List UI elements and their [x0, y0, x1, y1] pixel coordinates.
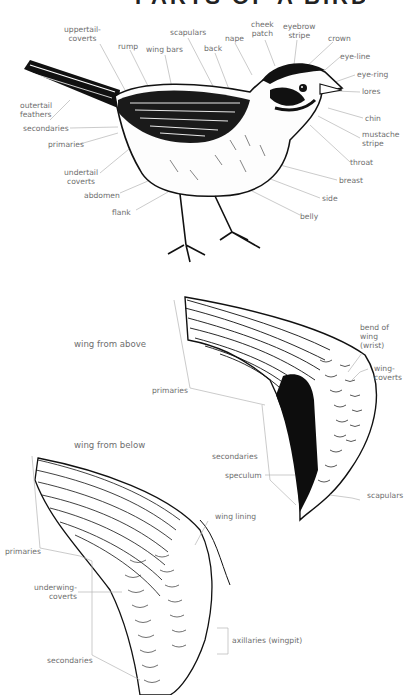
label-abdomen: abdomen: [84, 191, 120, 200]
label-undertail-coverts: undertail coverts: [64, 168, 98, 186]
bird-figure: [24, 60, 342, 262]
label-throat: throat: [350, 158, 373, 167]
label-scapulars-above: scapulars: [367, 491, 403, 500]
label-rump: rump: [118, 42, 138, 51]
label-secondaries-below: secondaries: [47, 656, 93, 665]
label-secondaries-above: secondaries: [212, 452, 258, 461]
label-eye-line: eye-line: [340, 52, 370, 61]
label-scapulars: scapulars: [170, 28, 206, 37]
label-secondaries: secondaries: [23, 124, 69, 133]
label-wing-coverts: wing- coverts: [374, 364, 402, 382]
label-bend-of-wing: bend of wing (wrist): [360, 323, 389, 350]
label-eye-ring: eye-ring: [357, 70, 388, 79]
label-speculum: speculum: [225, 471, 262, 480]
heading-wing-from-above: wing from above: [74, 339, 146, 349]
label-primaries-above: primaries: [152, 386, 188, 395]
label-axillaries: axillaries (wingpit): [232, 636, 302, 645]
label-mustache-stripe: mustache stripe: [362, 130, 399, 148]
label-wing-lining: wing lining: [215, 512, 256, 521]
label-flank: flank: [112, 208, 131, 217]
label-breast: breast: [339, 176, 363, 185]
label-chin: chin: [365, 114, 381, 123]
label-uppertail-coverts: uppertail- coverts: [64, 25, 101, 43]
label-nape: nape: [225, 34, 244, 43]
label-eyebrow-stripe: eyebrow stripe: [283, 22, 315, 40]
label-primaries-below: primaries: [5, 547, 41, 556]
label-wing-bars: wing bars: [146, 45, 183, 54]
label-underwing-coverts: underwing- coverts: [34, 583, 77, 601]
wing-above-figure: [185, 297, 376, 520]
label-outertail-feathers: outertail feathers: [20, 101, 52, 119]
label-back: back: [204, 44, 222, 53]
label-primaries: primaries: [48, 140, 84, 149]
label-cheek-patch: cheek patch: [251, 20, 274, 38]
label-belly: belly: [300, 212, 318, 221]
label-lores: lores: [362, 87, 380, 96]
heading-wing-from-below: wing from below: [74, 440, 145, 450]
label-side: side: [322, 194, 338, 203]
label-crown: crown: [328, 34, 351, 43]
